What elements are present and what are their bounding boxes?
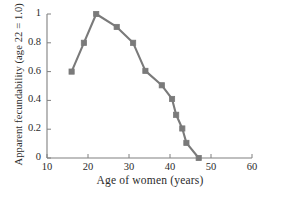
fecundability-chart-figure: Age of women (years) Apparent fecundabil…	[0, 0, 286, 197]
data-point-marker	[69, 69, 74, 74]
y-tick-label: 0	[15, 151, 41, 162]
data-point-marker	[143, 68, 148, 73]
data-point-marker	[184, 140, 189, 145]
y-tick-label: 0.2	[15, 122, 41, 133]
y-tick-label: 0.4	[15, 93, 41, 104]
x-tick-label: 10	[35, 161, 59, 172]
x-tick-label: 50	[199, 161, 223, 172]
data-line	[72, 14, 199, 158]
x-tick-label: 30	[117, 161, 141, 172]
y-axis-title: Apparent fecundability (age 22 = 1.0)	[13, 6, 24, 166]
data-point-marker	[169, 96, 174, 101]
x-axis-title: Age of women (years)	[40, 174, 260, 186]
chart-axes	[47, 14, 252, 158]
data-point-marker	[180, 126, 185, 131]
data-point-marker	[94, 11, 99, 16]
x-tick-label: 60	[240, 161, 264, 172]
y-tick-label: 0.8	[15, 36, 41, 47]
data-point-marker	[196, 155, 201, 160]
data-point-marker	[114, 24, 119, 29]
y-tick-label: 0.6	[15, 65, 41, 76]
y-tick-label: 1	[15, 7, 41, 18]
x-tick-label: 20	[76, 161, 100, 172]
data-point-marker	[159, 83, 164, 88]
data-point-marker	[131, 40, 136, 45]
data-point-marker	[174, 112, 179, 117]
data-point-marker	[81, 40, 86, 45]
x-tick-label: 40	[158, 161, 182, 172]
chart-series	[69, 11, 201, 160]
